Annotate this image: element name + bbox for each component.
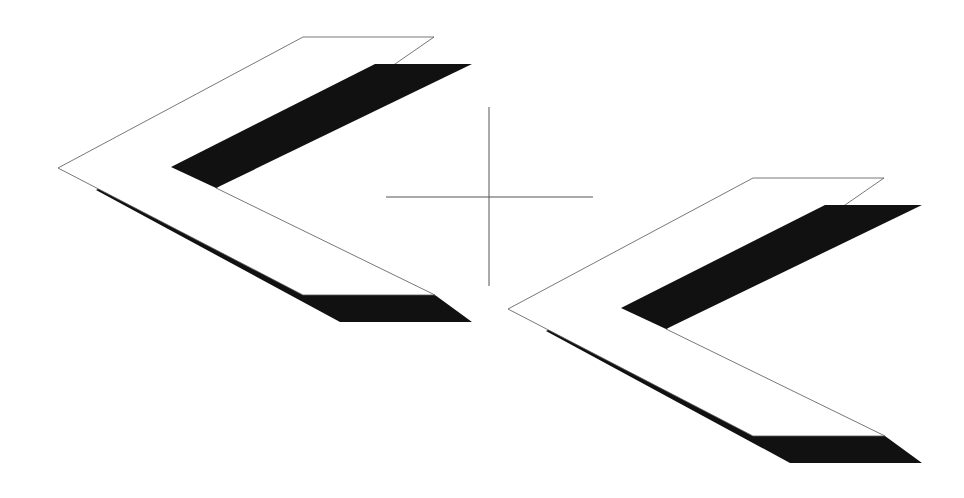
chevron-right (508, 178, 922, 463)
diagram-canvas (0, 0, 964, 498)
chevron-left (58, 37, 472, 322)
crosshair-icon (386, 107, 593, 286)
chevrons-group (58, 37, 922, 463)
